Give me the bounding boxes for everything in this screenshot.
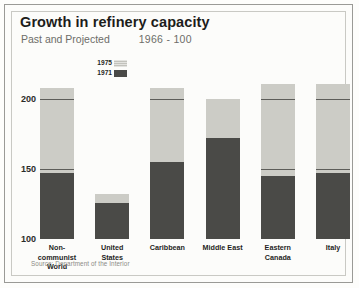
plot-area: 200150100Non-communist WorldUnited State… (40, 75, 350, 239)
bar-gridline-200 (316, 99, 350, 100)
bar-group[interactable] (95, 194, 129, 239)
bar-segment-1971[interactable] (316, 173, 350, 239)
y-axis-tick-200: 200 (21, 94, 36, 104)
x-axis-label: Non-communist World (30, 243, 84, 272)
bar-gridline-200 (40, 99, 74, 100)
bar-group[interactable] (40, 88, 74, 239)
bar-segment-1971[interactable] (95, 203, 129, 239)
bar-segment-1971[interactable] (261, 176, 295, 239)
bar-gridline-150 (316, 169, 350, 170)
bar-group[interactable] (150, 88, 184, 239)
bar-group[interactable] (316, 84, 350, 239)
bar-segment-1971[interactable] (150, 162, 184, 239)
bar-group[interactable] (261, 84, 295, 239)
chart-page: Growth in refinery capacity Past and Pro… (0, 0, 359, 288)
bar-group[interactable] (206, 99, 240, 239)
bar-gridline-150 (40, 169, 74, 170)
x-axis-label: Italy (306, 243, 359, 253)
y-axis-tick-150: 150 (21, 164, 36, 174)
chart-subtitle-index-base: 1966 - 100 (139, 33, 192, 45)
chart-title: Growth in refinery capacity (20, 14, 210, 30)
bar-gridline-200 (150, 99, 184, 100)
bar-gridline-200 (261, 99, 295, 100)
x-axis-label: Caribbean (140, 243, 194, 253)
bar-gridline-150 (261, 169, 295, 170)
legend-swatch-1975 (114, 60, 127, 67)
x-axis-label: Eastern Canada (251, 243, 305, 262)
chart-frame: Growth in refinery capacity Past and Pro… (4, 4, 353, 283)
legend-label-1975: 1975 (97, 59, 112, 67)
chart-subtitle: Past and Projected 1966 - 100 (21, 33, 192, 45)
bar-segment-1971[interactable] (206, 138, 240, 239)
chart-subtitle-left: Past and Projected (21, 33, 110, 45)
x-axis-label: Middle East (196, 243, 250, 253)
source-note: Source: Department of the Interior (31, 260, 130, 267)
bar-segment-1971[interactable] (40, 173, 74, 239)
legend-item-1975: 1975 (81, 59, 127, 67)
